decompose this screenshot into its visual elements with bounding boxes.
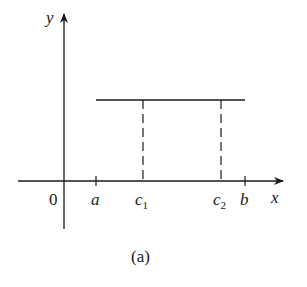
diagram-canvas: y 0 a c1 c2 b x (a) <box>0 0 307 287</box>
y-axis-label: y <box>44 8 54 27</box>
origin-label: 0 <box>49 190 58 209</box>
tick-label-c2: c2 <box>213 190 226 211</box>
tick-label-a: a <box>91 190 100 209</box>
tick-label-c1: c1 <box>135 190 148 211</box>
tick-label-b: b <box>240 190 249 209</box>
x-axis-label: x <box>270 188 279 207</box>
caption: (a) <box>131 247 150 266</box>
